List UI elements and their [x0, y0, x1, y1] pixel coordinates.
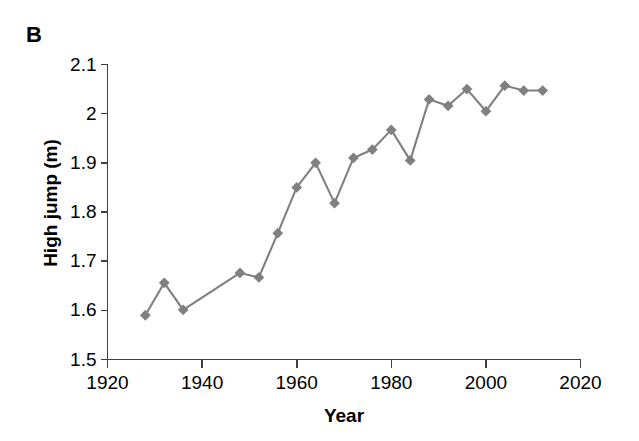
data-series: [140, 80, 548, 320]
data-point-marker: [405, 155, 416, 166]
figure-panel-b: B High jump (m) Year 1.51.61.71.81.922.1…: [0, 0, 639, 441]
y-tick-label: 1.8: [45, 201, 97, 223]
data-point-marker: [348, 153, 359, 164]
axes: [101, 65, 581, 368]
x-tick-label: 1980: [356, 372, 426, 394]
data-point-marker: [272, 228, 283, 239]
data-point-marker: [140, 310, 151, 321]
x-tick-label: 2000: [451, 372, 521, 394]
data-point-marker: [537, 85, 548, 96]
x-tick-label: 1920: [73, 372, 143, 394]
data-point-marker: [329, 198, 340, 209]
series-line: [145, 86, 542, 316]
y-tick-label: 1.6: [45, 299, 97, 321]
y-tick-label: 2.1: [45, 54, 97, 76]
data-point-marker: [235, 268, 246, 279]
y-tick-label: 1.7: [45, 250, 97, 272]
data-point-marker: [253, 272, 264, 283]
data-point-marker: [424, 94, 435, 105]
data-point-marker: [518, 85, 529, 96]
y-tick-label: 1.5: [45, 349, 97, 371]
x-tick-label: 1960: [262, 372, 332, 394]
y-tick-label: 1.9: [45, 152, 97, 174]
y-tick-label: 2: [45, 103, 97, 125]
x-tick-label: 2020: [546, 372, 616, 394]
x-tick-label: 1940: [167, 372, 237, 394]
